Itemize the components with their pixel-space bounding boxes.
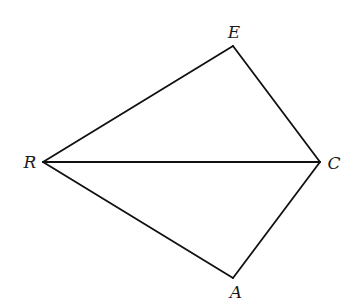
- edge-r-e: [43, 46, 233, 162]
- edges: [43, 46, 320, 278]
- geometry-diagram: E R C A: [0, 0, 358, 307]
- vertex-label-e: E: [227, 22, 241, 42]
- vertex-label-a: A: [228, 282, 242, 302]
- edge-a-c: [233, 162, 320, 278]
- edge-e-c: [233, 46, 320, 162]
- edge-r-a: [43, 162, 233, 278]
- vertex-label-c: C: [327, 153, 340, 173]
- vertex-label-r: R: [23, 152, 37, 172]
